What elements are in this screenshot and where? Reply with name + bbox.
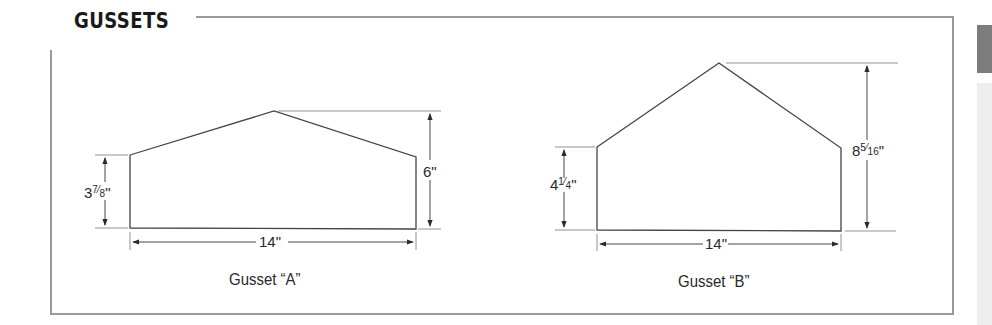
gusset-b-caption: Gusset “B” bbox=[678, 272, 750, 292]
gusset-b-side-height-label: 41⁄4" bbox=[550, 176, 576, 193]
gusset-a-shape: 37⁄8" 6" 14" bbox=[84, 111, 441, 250]
gusset-b-peak-height-label: 85⁄16" bbox=[852, 142, 884, 159]
gusset-b-shape: 41⁄4" 85⁄16" 14" bbox=[550, 63, 898, 252]
gusset-a-width-label: 14" bbox=[259, 233, 281, 250]
gusset-a-peak-height-label: 6" bbox=[423, 163, 437, 180]
gussets-diagram: 37⁄8" 6" 14" 41⁄4" 85⁄16" 14" bbox=[0, 0, 992, 325]
gusset-a-side-height-label: 37⁄8" bbox=[84, 184, 110, 201]
gusset-a-caption: Gusset “A” bbox=[229, 270, 301, 290]
gusset-b-width-label: 14" bbox=[705, 235, 727, 252]
